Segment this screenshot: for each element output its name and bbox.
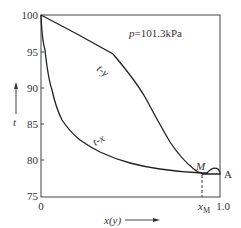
arrow-up-icon <box>14 82 18 89</box>
t-y-label: t-y <box>95 62 112 79</box>
arrow-right-icon <box>153 218 160 222</box>
x-tick-labels: 0 1.0 xM <box>38 200 230 215</box>
svg-text:75: 75 <box>27 190 39 202</box>
x-m-tick-label: xM <box>197 200 210 215</box>
point-m-label: M <box>195 160 206 172</box>
y-axis-label: t <box>13 82 18 128</box>
plot-frame <box>41 15 220 197</box>
svg-text:80: 80 <box>27 154 39 166</box>
svg-text:90: 90 <box>27 82 39 94</box>
svg-text:x(y): x(y) <box>103 214 121 227</box>
pressure-annotation: p=101.3kPa <box>128 27 182 39</box>
svg-text:100: 100 <box>22 9 39 21</box>
svg-text:95: 95 <box>27 46 39 58</box>
y-tick-labels: 100 95 90 85 80 75 <box>22 9 39 202</box>
x-axis-label: x(y) <box>103 214 160 227</box>
svg-text:1.0: 1.0 <box>216 200 230 212</box>
svg-text:t: t <box>13 116 17 128</box>
svg-text:0: 0 <box>38 200 44 212</box>
svg-text:85: 85 <box>27 118 39 130</box>
txy-phase-diagram: 100 95 90 85 80 75 t 0 1.0 xM x(y) p=101… <box>0 0 241 228</box>
point-a-label: A <box>224 168 232 180</box>
t-x-label: t-x <box>90 132 106 148</box>
